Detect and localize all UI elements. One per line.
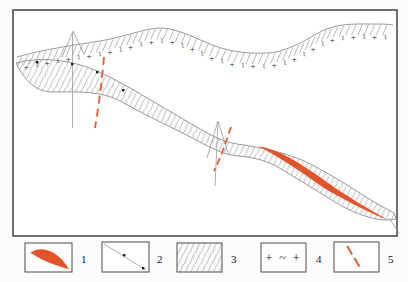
legend-item-5: 5 bbox=[334, 242, 394, 272]
svg-text:+: + bbox=[229, 59, 234, 69]
svg-text:+: + bbox=[149, 37, 154, 47]
svg-text:+: + bbox=[45, 58, 50, 68]
legend-item-3: 3 bbox=[177, 243, 237, 272]
svg-text:+: + bbox=[66, 54, 71, 64]
svg-text:+: + bbox=[190, 44, 195, 54]
svg-text:+: + bbox=[311, 44, 316, 54]
legend-plus-tilde-symbol: + ~ + bbox=[265, 251, 301, 265]
svg-text:+: + bbox=[330, 35, 335, 45]
legend-label-1: 1 bbox=[81, 253, 87, 265]
legend-box-fault bbox=[334, 242, 379, 272]
svg-text:+: + bbox=[24, 62, 29, 72]
svg-text:+: + bbox=[128, 42, 133, 52]
legend-boundary-dot bbox=[123, 254, 125, 256]
svg-text:+: + bbox=[372, 32, 377, 42]
svg-text:+: + bbox=[170, 37, 175, 47]
legend-item-1: 1 bbox=[25, 243, 87, 272]
geological-map-svg: +~+~+~+~+~+~+~+~+~+~+~+~+~+~+~+~+~+~ 1 bbox=[0, 0, 408, 282]
legend-label-4: 4 bbox=[316, 253, 322, 265]
contact-point-dot bbox=[96, 71, 98, 73]
contact-point-dot bbox=[71, 63, 73, 65]
legend-box-hatched bbox=[177, 243, 222, 272]
svg-text:+: + bbox=[209, 53, 214, 63]
legend-label-2: 2 bbox=[157, 253, 163, 265]
legend-item-4: + ~ + 4 bbox=[261, 243, 322, 272]
svg-text:+: + bbox=[251, 61, 256, 71]
contact-point-dot bbox=[36, 61, 38, 63]
figure-canvas: +~+~+~+~+~+~+~+~+~+~+~+~+~+~+~+~+~+~ 1 bbox=[0, 0, 408, 282]
svg-text:+: + bbox=[351, 32, 356, 42]
svg-text:+: + bbox=[87, 51, 92, 61]
legend: 1 2 3 + ~ + 4 5 bbox=[25, 242, 394, 272]
svg-text:+: + bbox=[292, 54, 297, 64]
svg-text:+: + bbox=[107, 47, 112, 57]
legend-boundary-dot bbox=[142, 267, 144, 269]
contact-point-dot bbox=[122, 89, 124, 91]
svg-text:+: + bbox=[272, 60, 277, 70]
legend-label-3: 3 bbox=[231, 253, 237, 265]
legend-item-2: 2 bbox=[102, 242, 163, 272]
legend-label-5: 5 bbox=[388, 253, 394, 265]
